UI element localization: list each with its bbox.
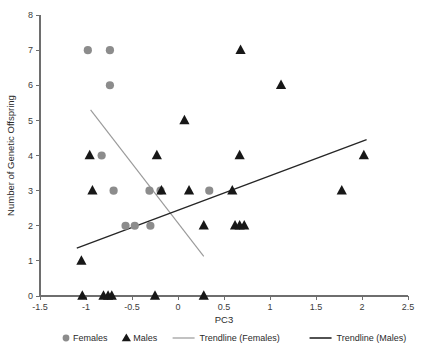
y-tick-label: 7 (28, 45, 33, 55)
data-point-male (359, 150, 369, 160)
x-axis-ticks: -1.5-1-0.500.511.522.5 (32, 296, 414, 312)
x-tick-label: -0.5 (124, 302, 140, 312)
y-tick-label: 4 (28, 151, 33, 161)
series-points-females (84, 46, 214, 230)
y-tick-label: 3 (28, 186, 33, 196)
data-point-female (110, 187, 118, 195)
data-point-female (146, 222, 154, 230)
x-axis-title: PC3 (215, 314, 233, 325)
x-tick-label: 0 (175, 302, 180, 312)
data-point-male (87, 185, 97, 195)
y-axis-ticks: 012345678 (28, 10, 40, 301)
x-tick-label: 1 (267, 302, 272, 312)
data-point-female (84, 46, 92, 54)
series-points-males (76, 44, 369, 299)
x-tick-label: 1.5 (310, 302, 323, 312)
y-tick-label: 5 (28, 116, 33, 126)
data-point-female (205, 187, 213, 195)
data-point-male (199, 290, 209, 300)
trendlines-group (77, 110, 367, 256)
x-tick-label: -1 (82, 302, 90, 312)
y-tick-label: 8 (28, 10, 33, 20)
scatter-chart-figure: -1.5-1-0.500.511.522.5 012345678 PC3 Num… (0, 0, 425, 357)
x-tick-label: -1.5 (32, 302, 48, 312)
y-tick-label: 6 (28, 80, 33, 90)
data-point-male (179, 115, 189, 125)
data-point-female (131, 222, 139, 230)
y-tick-label: 0 (28, 291, 33, 301)
data-point-female (98, 151, 106, 159)
legend-label-males: Males (133, 333, 158, 343)
trendline-females (91, 110, 204, 256)
data-point-female (145, 187, 153, 195)
data-point-male (227, 185, 237, 195)
data-point-female (121, 222, 129, 230)
data-point-male (76, 255, 86, 265)
legend-label-trendline-males: Trendline (Males) (337, 333, 407, 343)
data-point-male (235, 150, 245, 160)
y-tick-label: 2 (28, 221, 33, 231)
chart-legend: FemalesMalesTrendline (Females)Trendline… (63, 333, 407, 343)
data-point-male (235, 44, 245, 54)
data-point-male (152, 150, 162, 160)
y-tick-label: 1 (28, 256, 33, 266)
y-axis-title: Number of Genetic Offspring (5, 95, 16, 216)
data-point-male (150, 290, 160, 300)
legend-label-females: Females (73, 333, 108, 343)
axes-group (40, 15, 408, 296)
data-point-male (199, 220, 209, 230)
data-point-male (337, 185, 347, 195)
data-point-female (106, 81, 114, 89)
legend-marker-circle-females (63, 335, 70, 342)
data-point-female (106, 46, 114, 54)
data-point-male (184, 185, 194, 195)
trendline-males (77, 140, 367, 249)
data-point-male (85, 150, 95, 160)
legend-label-trendline-females: Trendline (Females) (200, 333, 280, 343)
x-tick-label: 2 (359, 302, 364, 312)
x-tick-label: 0.5 (218, 302, 231, 312)
chart-canvas: -1.5-1-0.500.511.522.5 012345678 PC3 Num… (0, 0, 425, 357)
data-point-male (77, 290, 87, 300)
x-tick-label: 2.5 (402, 302, 415, 312)
legend-marker-triangle-males (122, 334, 131, 342)
data-point-male (276, 80, 286, 90)
